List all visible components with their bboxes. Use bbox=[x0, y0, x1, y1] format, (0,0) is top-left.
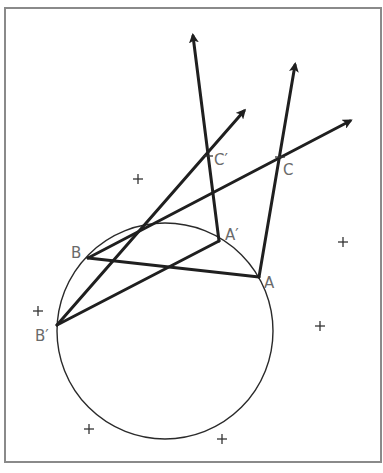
label-b-prime: B′ bbox=[35, 327, 49, 345]
label-c-prime: C′ bbox=[214, 151, 228, 169]
diagram-canvas: C′ C A′ A B B′ bbox=[0, 0, 383, 473]
label-a: A bbox=[264, 274, 275, 292]
plus-marker bbox=[133, 174, 143, 184]
circumcircle bbox=[57, 223, 273, 439]
plus-marker bbox=[217, 434, 227, 444]
plus-marker bbox=[315, 321, 325, 331]
label-a-prime: A′ bbox=[225, 226, 239, 244]
figure-frame bbox=[5, 8, 381, 462]
plus-marker bbox=[33, 306, 43, 316]
plus-marker bbox=[84, 424, 94, 434]
label-b: B bbox=[71, 244, 81, 262]
plus-marker bbox=[338, 237, 348, 247]
label-c: C bbox=[283, 161, 293, 179]
ray-aprime-cprime bbox=[193, 36, 219, 241]
segment-bprime-aprime bbox=[57, 241, 219, 325]
